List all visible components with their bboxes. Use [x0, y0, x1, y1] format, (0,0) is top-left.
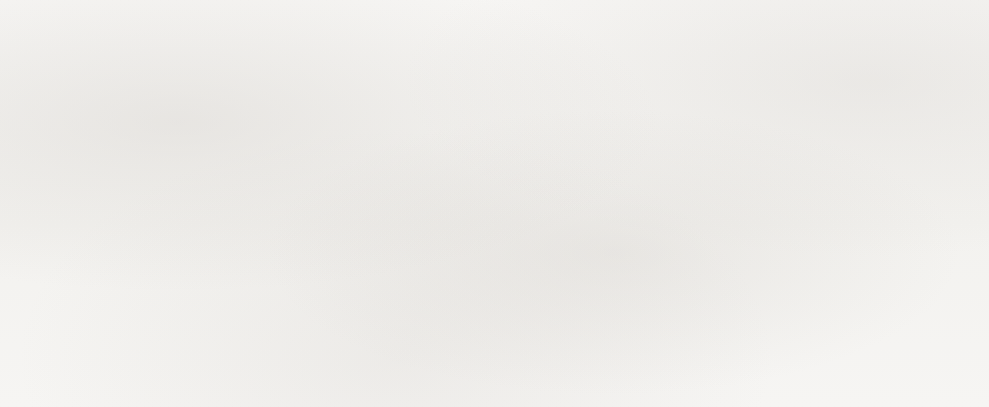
chart-plot-area: [0, 0, 989, 407]
y-tick-group: [68, 40, 75, 353]
data-point-marker: [809, 40, 820, 51]
data-point-marker: [661, 193, 672, 204]
data-point-marker-group: [70, 40, 968, 359]
data-point-marker: [365, 251, 376, 262]
gridline-group: [75, 40, 962, 353]
data-point-marker: [513, 224, 524, 235]
data-line-series: [75, 45, 962, 353]
data-point-marker: [957, 77, 968, 88]
line-chart-figure: $60.0055.0050.0045.0040.0035.0030.0025.0…: [0, 0, 989, 407]
data-point-marker: [217, 236, 228, 247]
data-point-marker: [70, 348, 81, 359]
